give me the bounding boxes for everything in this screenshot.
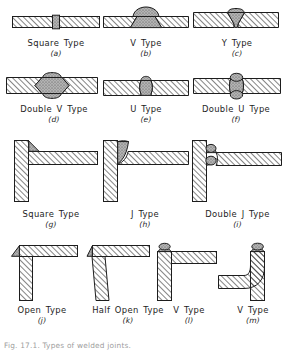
sublabel-d: (d)	[0, 115, 108, 124]
diagram-corner-v	[155, 243, 217, 301]
sublabel-l: (l)	[160, 316, 218, 325]
label-j: Open Type	[0, 305, 86, 315]
label-f: Double U Type	[183, 104, 289, 114]
label-g: Square Type	[0, 209, 102, 219]
diagram-butt-u	[103, 76, 189, 98]
label-c: Y Type	[185, 38, 289, 48]
diagram-corner-open	[10, 245, 78, 301]
diagram-tee-double-j	[192, 140, 282, 202]
label-h: J Type	[95, 209, 195, 219]
sublabel-i: (i)	[186, 220, 289, 229]
label-d: Double V Type	[0, 104, 108, 114]
label-m: V Type	[224, 305, 282, 315]
sublabel-f: (f)	[183, 115, 289, 124]
sublabel-j: (j)	[0, 316, 86, 325]
figure-caption: Fig. 17.1. Types of welded joints.	[4, 341, 131, 350]
diagram-butt-double-v	[6, 72, 98, 100]
diagram-corner-half-open	[84, 245, 150, 301]
diagram-butt-v	[103, 6, 189, 32]
diagram-tee-square	[14, 140, 98, 202]
sublabel-m: (m)	[224, 316, 282, 325]
diagram-tee-j	[103, 140, 189, 202]
diagram-butt-y	[193, 8, 279, 30]
label-b: V Type	[93, 38, 199, 48]
sublabel-c: (c)	[185, 49, 289, 58]
sublabel-b: (b)	[93, 49, 199, 58]
label-l: V Type	[160, 305, 218, 315]
sublabel-h: (h)	[95, 220, 195, 229]
label-i: Double J Type	[186, 209, 289, 219]
sublabel-g: (g)	[0, 220, 102, 229]
diagram-butt-double-u	[193, 73, 281, 100]
diagram-butt-square	[12, 12, 100, 32]
diagram-corner-v-bent	[216, 243, 286, 301]
